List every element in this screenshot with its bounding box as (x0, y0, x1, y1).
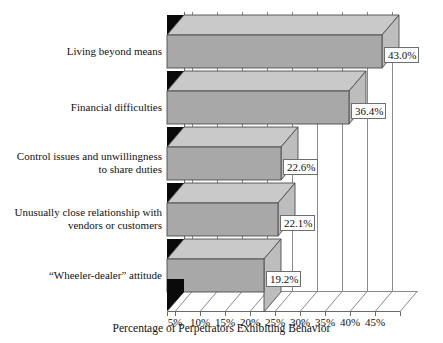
category-label-4: “Wheeler-dealer” attitude (2, 269, 162, 282)
value-label-4: 19.2% (266, 271, 301, 287)
bar-top-face-4 (167, 239, 281, 259)
bar-top-face-3 (167, 183, 295, 203)
bar-front-face-3 (167, 203, 278, 236)
bar-top-face-2 (167, 127, 298, 147)
value-label-0: 43.0% (384, 47, 419, 63)
category-label-2: Control issues and unwillingness to shar… (2, 150, 162, 176)
bar-group-0[interactable] (167, 15, 399, 68)
bar-chart: Living beyond means Financial difficulti… (0, 0, 443, 343)
bar-front-face-1 (167, 91, 349, 124)
bar-group-2[interactable] (167, 127, 298, 180)
bar-top-face-0 (167, 15, 399, 35)
bar-front-face-0 (167, 35, 382, 68)
value-label-1: 36.4% (351, 103, 386, 119)
bar-top-face-1 (167, 71, 366, 91)
category-label-1: Financial difficulties (2, 101, 162, 114)
bar-front-face-2 (167, 147, 281, 180)
bar-group-3[interactable] (167, 183, 295, 236)
category-label-0: Living beyond means (2, 45, 162, 58)
category-label-3: Unusually close relationship with vendor… (2, 206, 162, 232)
x-axis-title: Percentage of Perpetrators Exhibiting Be… (0, 322, 443, 334)
floor-depth-lines (176, 291, 418, 311)
value-label-3: 22.1% (280, 215, 315, 231)
value-label-2: 22.6% (283, 159, 318, 175)
bar-group-1[interactable] (167, 71, 366, 124)
